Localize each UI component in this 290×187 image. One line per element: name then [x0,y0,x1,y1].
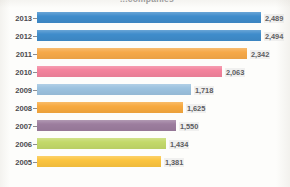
y-axis-tick-label: 2006 [8,140,32,149]
bar [37,102,183,113]
bar-row: 20051,381 [0,153,290,171]
bar [37,48,247,59]
plot-area: 20132,48920122,49420112,34220102,0632009… [0,7,290,187]
y-axis-tick-label: 2007 [8,122,32,131]
bar-value-label: 1,625 [186,104,206,113]
y-axis-tick-label: 2005 [8,158,32,167]
bar [37,30,261,41]
y-axis-tick-label: 2010 [8,68,32,77]
bar-value-label: 1,550 [179,122,199,131]
bar-row: 20122,494 [0,27,290,45]
y-axis-tick-label: 2013 [8,14,32,23]
chart-title-strip: ...companies [0,0,290,7]
bar-row: 20061,434 [0,135,290,153]
bar-value-label: 1,434 [169,140,189,149]
bar-value-label: 2,063 [225,68,245,77]
bar [37,12,261,23]
bar-row: 20132,489 [0,9,290,27]
bar [37,156,161,167]
bar-value-label: 2,489 [264,14,284,23]
bar [37,84,191,95]
bar [37,138,166,149]
bar-value-label: 2,342 [250,50,270,59]
bar-row: 20091,718 [0,81,290,99]
bar-row: 20071,550 [0,117,290,135]
bar-row: 20081,625 [0,99,290,117]
bar-row: 20102,063 [0,63,290,81]
y-axis-tick-label: 2011 [8,50,32,59]
bar-value-label: 1,718 [194,86,214,95]
bar-value-label: 2,494 [264,32,284,41]
bar-value-label: 1,381 [164,158,184,167]
y-axis-tick-label: 2008 [8,104,32,113]
y-axis-tick-label: 2012 [8,32,32,41]
bar-chart: ...companies 20132,48920122,49420112,342… [0,0,290,187]
bar [37,120,176,131]
y-axis-tick-label: 2009 [8,86,32,95]
chart-title: ...companies [120,0,174,4]
bar-row: 20112,342 [0,45,290,63]
bar [37,66,222,77]
